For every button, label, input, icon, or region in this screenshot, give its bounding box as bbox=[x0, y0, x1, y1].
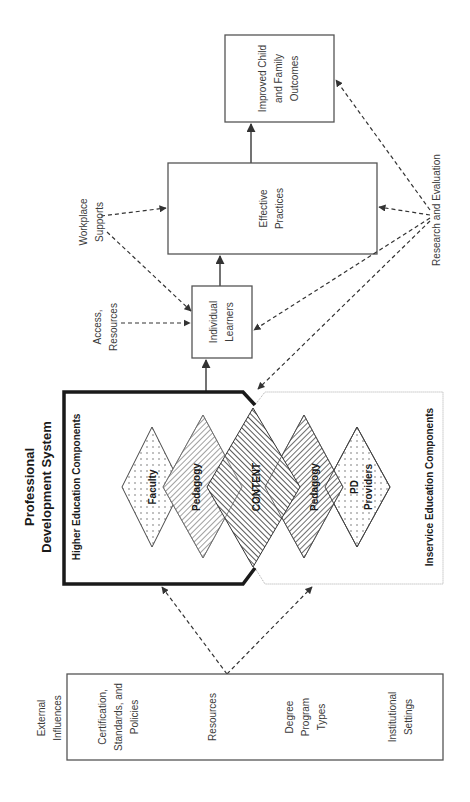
outcomes-line2: and Family bbox=[273, 54, 284, 103]
pedagogy-left-label: Pedagogy bbox=[191, 463, 202, 511]
svg-text:External: External bbox=[36, 700, 47, 737]
outcomes-box: Improved Child and Family Outcomes bbox=[225, 35, 334, 122]
content-label: CONTENT bbox=[251, 463, 262, 511]
svg-text:Program: Program bbox=[300, 698, 311, 736]
learners-line2: Learners bbox=[224, 302, 235, 341]
svg-text:Professional: Professional bbox=[22, 448, 37, 526]
external-item-resources: Resources bbox=[207, 693, 218, 741]
svg-text:Pedagogy: Pedagogy bbox=[309, 463, 320, 511]
svg-text:Policies: Policies bbox=[129, 700, 140, 734]
practices-line2: Practices bbox=[274, 188, 285, 229]
svg-text:Degree: Degree bbox=[284, 700, 295, 733]
arrow-external-to-inservice bbox=[227, 587, 312, 674]
svg-text:Resources: Resources bbox=[207, 693, 218, 741]
outcomes-line3: Outcomes bbox=[289, 56, 300, 102]
higher-education-label: Higher Education Components bbox=[71, 413, 82, 560]
svg-text:Institutional: Institutional bbox=[387, 692, 398, 743]
research-evaluation-label: Research and Evaluation bbox=[431, 154, 442, 266]
external-influences-label: External Influences bbox=[36, 695, 63, 741]
svg-text:Settings: Settings bbox=[403, 699, 414, 735]
learners-line1: Individual bbox=[208, 301, 219, 343]
svg-text:Providers: Providers bbox=[363, 463, 374, 510]
svg-text:Research and Evaluation: Research and Evaluation bbox=[431, 154, 442, 266]
practices-line1: Effective bbox=[258, 189, 269, 228]
external-influences-box: Certification, Standards, and Policies R… bbox=[67, 674, 443, 760]
faculty-label: Faculty bbox=[147, 469, 158, 504]
access-resources-label: Access, Resources bbox=[92, 303, 119, 351]
inservice-education-label: Inservice Education Components bbox=[424, 407, 435, 566]
svg-text:Supports: Supports bbox=[94, 202, 105, 242]
svg-text:Development System: Development System bbox=[39, 421, 54, 553]
svg-text:PD: PD bbox=[349, 480, 360, 494]
svg-text:Types: Types bbox=[316, 704, 327, 731]
svg-text:Workplace: Workplace bbox=[78, 198, 89, 245]
arrow-research-to-practices bbox=[379, 207, 430, 215]
svg-text:CONTENT: CONTENT bbox=[251, 463, 262, 511]
workplace-supports-label: Workplace Supports bbox=[78, 198, 105, 245]
svg-text:Resources: Resources bbox=[108, 303, 119, 351]
svg-text:Higher Education Components: Higher Education Components bbox=[71, 413, 82, 560]
individual-learners-box: Individual Learners bbox=[192, 286, 252, 358]
arrow-external-to-higher-ed bbox=[162, 587, 227, 674]
svg-text:Certification,: Certification, bbox=[97, 689, 108, 745]
svg-text:Standards, and: Standards, and bbox=[113, 683, 124, 751]
pds-title: Professional Development System bbox=[22, 421, 54, 553]
outcomes-line1: Improved Child bbox=[257, 45, 268, 112]
arrow-workplace-to-practices bbox=[101, 208, 166, 216]
professional-development-diagram: Improved Child and Family Outcomes Effec… bbox=[0, 0, 470, 802]
svg-text:Pedagogy: Pedagogy bbox=[191, 463, 202, 511]
pedagogy-right-label: Pedagogy bbox=[309, 463, 320, 511]
svg-text:Faculty: Faculty bbox=[147, 469, 158, 504]
svg-text:Influences: Influences bbox=[52, 695, 63, 741]
svg-text:Access,: Access, bbox=[92, 309, 103, 344]
effective-practices-box: Effective Practices bbox=[168, 163, 377, 254]
svg-text:Inservice Education Components: Inservice Education Components bbox=[424, 407, 435, 566]
